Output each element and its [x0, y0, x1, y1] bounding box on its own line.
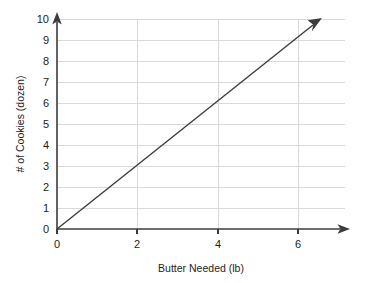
y-axis-title: # of Cookies (dozen)	[14, 76, 26, 173]
x-axis-tick-labels: 0 2 4 6	[54, 238, 301, 250]
ytick-label-2: 2	[43, 181, 49, 193]
xtick-label-4: 4	[215, 238, 221, 250]
y-axis	[52, 12, 62, 229]
cookies-vs-butter-line-chart: 10 9 8 7 6 5 4 3 2 1 0 0 2 4 6 Butter Ne…	[0, 0, 375, 283]
y-axis-tick-labels: 10 9 8 7 6 5 4 3 2 1 0	[37, 13, 49, 235]
ytick-label-0: 0	[43, 223, 49, 235]
x-axis	[57, 224, 350, 234]
ytick-label-10: 10	[37, 13, 49, 25]
ytick-label-4: 4	[43, 139, 49, 151]
xtick-label-6: 6	[295, 238, 301, 250]
ytick-label-9: 9	[43, 34, 49, 46]
xtick-label-0: 0	[54, 238, 60, 250]
ytick-label-7: 7	[43, 76, 49, 88]
chart-plot-area: 10 9 8 7 6 5 4 3 2 1 0 0 2 4 6 Butter Ne…	[0, 0, 375, 283]
ytick-label-6: 6	[43, 97, 49, 109]
ytick-label-5: 5	[43, 118, 49, 130]
ytick-label-8: 8	[43, 55, 49, 67]
x-axis-title: Butter Needed (lb)	[158, 262, 244, 274]
ytick-label-3: 3	[43, 160, 49, 172]
data-line-arrow-icon	[308, 18, 322, 32]
ytick-label-1: 1	[43, 202, 49, 214]
proportional-line	[57, 25, 313, 229]
xtick-label-2: 2	[134, 238, 140, 250]
